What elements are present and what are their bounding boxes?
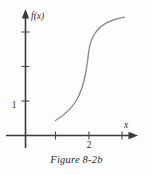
function-curve	[56, 17, 125, 120]
figure-caption: Figure 8-2b	[0, 154, 153, 165]
x-tick-label-2: 2	[87, 140, 92, 150]
x-axis-arrowhead	[129, 132, 139, 139]
y-tick-label-1: 1	[12, 100, 17, 110]
x-axis-label: x	[123, 120, 129, 130]
graph-plot: f(x) x 1 2	[0, 0, 153, 152]
y-axis-arrowhead	[22, 9, 29, 19]
y-axis-label: f(x)	[31, 11, 44, 22]
figure-container: f(x) x 1 2 Figure 8-2b	[0, 0, 153, 175]
